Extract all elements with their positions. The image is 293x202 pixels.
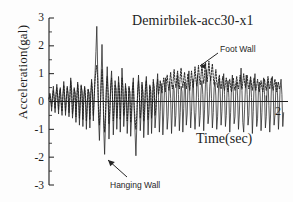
y-tick-label-3: 3 <box>26 11 44 23</box>
y-tick-label-0: 0 <box>26 95 44 107</box>
foot-wall-annotation: Foot Wall <box>220 44 256 54</box>
x-tick-label-2: 2 <box>275 104 281 119</box>
y-tick-label-2: 2 <box>26 39 44 51</box>
acceleration-time-history-figure: Acceleration(gal) Demirbilek-acc30-x1 Ti… <box>0 0 293 202</box>
y-tick-label-minus1: -1 <box>26 123 44 135</box>
y-tick-label-minus3: -3 <box>26 179 44 191</box>
y-tick-label-1: 1 <box>26 67 44 79</box>
y-axis-ticks <box>49 18 54 185</box>
hanging-wall-annotation: Hanging Wall <box>110 180 160 190</box>
chart-title: Demirbilek-acc30-x1 <box>132 13 254 29</box>
y-tick-label-minus2: -2 <box>26 151 44 163</box>
x-axis-label: Time(sec) <box>196 131 252 147</box>
